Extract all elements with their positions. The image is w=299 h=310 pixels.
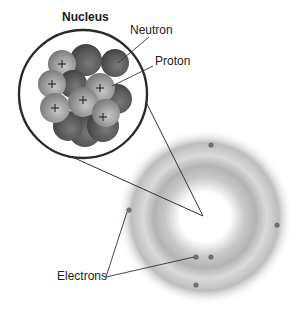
electron-dot bbox=[208, 142, 213, 147]
electron-dot bbox=[274, 222, 279, 227]
electron-dot bbox=[208, 254, 213, 259]
electrons-label: Electrons bbox=[57, 269, 107, 283]
neutron-particle bbox=[101, 49, 129, 77]
nucleus-label: Nucleus bbox=[62, 10, 109, 24]
electron-cloud bbox=[115, 127, 295, 307]
electron-dot bbox=[193, 254, 198, 259]
neutron-label: Neutron bbox=[130, 23, 173, 37]
proton-label: Proton bbox=[155, 54, 190, 68]
electron-dot bbox=[126, 207, 131, 212]
atom-diagram-svg bbox=[0, 0, 299, 310]
electron-dot bbox=[193, 282, 198, 287]
atom-diagram: Nucleus Neutron Proton Electrons bbox=[0, 0, 299, 310]
proton-particle bbox=[92, 99, 120, 127]
